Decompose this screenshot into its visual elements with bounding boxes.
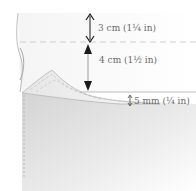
measurement-label-5mm: 5 mm (¼ in) [134,97,190,106]
arrow-5mm [128,95,132,106]
measurement-label-4cm: 4 cm (1½ in) [99,56,157,65]
hem-diagram: 3 cm (1¼ in) 4 cm (1½ in) 5 mm (¼ in) [0,0,196,191]
measurement-label-3cm: 3 cm (1¼ in) [98,24,156,33]
lower-fabric [22,93,196,191]
